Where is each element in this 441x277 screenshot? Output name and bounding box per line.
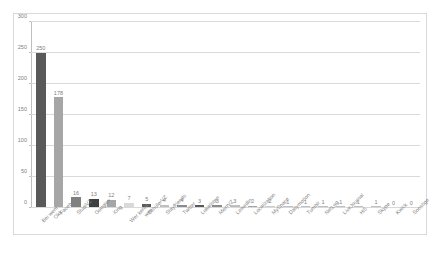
x-label-slot: MeinVZ (209, 210, 227, 270)
bar-slot: 3 (191, 22, 209, 207)
y-axis-tick-mark (29, 176, 31, 177)
x-label-slot: Google+ (85, 210, 103, 270)
y-axis-tick-label: 50 (21, 169, 27, 175)
plot-area: 050100150200250300 250178161312754433322… (31, 22, 420, 208)
bar-slot: 178 (50, 22, 68, 207)
x-label-slot: Wer kenntwen (120, 210, 138, 270)
x-label-slot: Lokalisten (191, 210, 209, 270)
bar-value-label: 7 (127, 196, 130, 202)
bar-slot: 3 (208, 22, 226, 207)
x-label-slot: LinkedIn (227, 210, 245, 270)
x-label-slot: Localization (244, 210, 262, 270)
x-label-slot: Hi5 (350, 210, 368, 270)
x-label-slot: Xing (103, 210, 121, 270)
bar-slot: 1 (279, 22, 297, 207)
bar-slot: 4 (155, 22, 173, 207)
x-axis-labels: Bei wemOkkFacebookStudiVZGoogle+XingWer … (32, 210, 421, 270)
bar-slot: 1 (314, 22, 332, 207)
x-label-slot: Skype (368, 210, 386, 270)
y-axis-tick-mark (29, 145, 31, 146)
bar-slot: 0 (385, 22, 403, 207)
x-label-slot: StudiVZ (67, 210, 85, 270)
bar-slot: 12 (103, 22, 121, 207)
bar-slot: 4 (173, 22, 191, 207)
x-label-slot: Tumblr (297, 210, 315, 270)
bar-slot: 1 (297, 22, 315, 207)
bar-value-label: 1 (374, 200, 377, 206)
bar-slot: 1 (332, 22, 350, 207)
y-axis-tick-mark (29, 207, 31, 208)
chart-container: 050100150200250300 250178161312754433322… (0, 0, 441, 277)
bar-slot: 0 (402, 22, 420, 207)
bar[interactable]: 250 (36, 53, 46, 207)
bar-value-label: 13 (91, 192, 97, 198)
x-label-slot: MySpace (262, 210, 280, 270)
bar-slot: 1 (367, 22, 385, 207)
x-label-slot: Bei wemOkk (32, 210, 50, 270)
bar-slot: 1 (350, 22, 368, 207)
bar-slot: 250 (32, 22, 50, 207)
x-label-slot: Kwick (386, 210, 404, 270)
bar-slot: 7 (120, 22, 138, 207)
y-axis-tick-mark (29, 52, 31, 53)
bar-value-label: 178 (54, 91, 63, 97)
bar[interactable]: 7 (124, 203, 134, 207)
x-label-slot: Dailymotion (280, 210, 298, 270)
y-axis-tick-label: 200 (18, 76, 27, 82)
bar[interactable]: 178 (54, 97, 64, 207)
bar-value-label: 250 (36, 46, 45, 52)
bar-slot: 3 (226, 22, 244, 207)
bar-slot: 16 (67, 22, 85, 207)
x-label-slot: Stayfriends (156, 210, 174, 270)
x-label-slot: Twitter (174, 210, 192, 270)
x-label-slot: LiveJournal (333, 210, 351, 270)
x-label-slot: NetLog (315, 210, 333, 270)
y-axis-tick-mark (29, 114, 31, 115)
bar-value-label: 1 (322, 200, 325, 206)
y-axis-tick-label: 100 (18, 138, 27, 144)
y-axis-tick-label: 300 (18, 14, 27, 20)
y-axis-tick-label: 150 (18, 107, 27, 113)
bar-value-label: 0 (392, 201, 395, 207)
y-axis-tick-label: 250 (18, 45, 27, 51)
bar-slot: 2 (244, 22, 262, 207)
bar-slot: 5 (138, 22, 156, 207)
y-axis-tick-mark (29, 83, 31, 84)
bar-slot: 13 (85, 22, 103, 207)
x-label-slot: Facebook (50, 210, 68, 270)
bar-slot: 2 (261, 22, 279, 207)
x-label-slot: SchülerVZ (138, 210, 156, 270)
y-axis-tick-label: 0 (24, 200, 27, 206)
bar-value-label: 0 (410, 201, 413, 207)
x-label-slot: Sonstige (403, 210, 421, 270)
bar-value-label: 3 (198, 199, 201, 205)
bar-series: 25017816131275443332211111100 (32, 22, 420, 207)
y-axis-tick-mark (29, 21, 31, 22)
